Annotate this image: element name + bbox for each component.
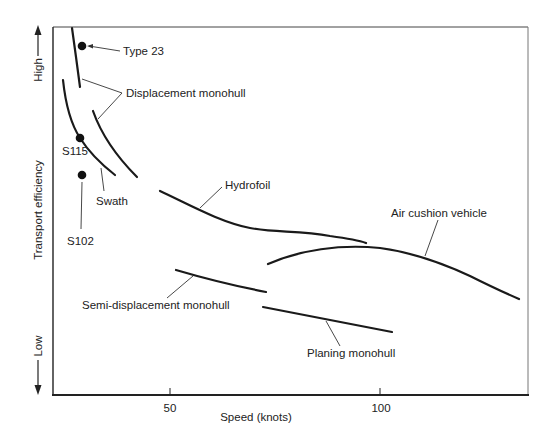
arrow-down-icon: [35, 385, 42, 395]
curve-swath: [63, 80, 115, 175]
curve-semi-displacement-monohull: [176, 270, 266, 292]
y-high-label: High: [32, 58, 44, 82]
leader-s102: [81, 182, 82, 229]
point-type23: [78, 42, 87, 51]
curve-air-cushion-vehicle: [268, 247, 519, 299]
leader-planing: [326, 321, 340, 346]
arrowhead-icon: [87, 44, 93, 49]
leader-acv: [425, 220, 438, 256]
label-swath: Swath: [96, 195, 128, 207]
label-air-cushion-vehicle: Air cushion vehicle: [391, 207, 487, 219]
annotation-labels: Type 23 Displacement monohull S115 Swath…: [62, 45, 487, 359]
leader-type23: [89, 46, 120, 51]
leader-hydrofoil: [200, 187, 222, 208]
y-axis-annotations: High Transport efficiency Low: [32, 25, 44, 395]
x-tick-label-50: 50: [164, 402, 177, 414]
leader-displacement-upper: [82, 79, 122, 93]
curve-hydrofoil: [160, 191, 366, 243]
point-s115: [76, 134, 85, 143]
y-low-label: Low: [32, 335, 44, 357]
curve-planing-monohull: [263, 307, 392, 332]
label-s115: S115: [62, 145, 88, 157]
transport-efficiency-chart: 50 100 Speed (knots) High Transport effi…: [0, 0, 555, 434]
label-displacement-monohull: Displacement monohull: [126, 87, 246, 99]
curve-displacement-monohull-upper: [72, 28, 80, 87]
y-axis-title: Transport efficiency: [32, 160, 44, 260]
point-s102: [78, 171, 87, 180]
leader-swath: [101, 168, 104, 191]
x-tick-label-100: 100: [371, 402, 390, 414]
label-planing-monohull: Planing monohull: [307, 347, 395, 359]
label-semi-displacement-monohull: Semi-displacement monohull: [82, 299, 230, 311]
leader-displacement-lower: [98, 93, 122, 119]
x-axis-title: Speed (knots): [220, 411, 292, 423]
label-hydrofoil: Hydrofoil: [225, 179, 270, 191]
leader-semi-displacement: [167, 276, 193, 298]
arrow-up-icon: [35, 25, 42, 35]
label-type23: Type 23: [123, 45, 164, 57]
curves: [63, 28, 519, 332]
curve-displacement-monohull-lower: [93, 111, 137, 177]
label-s102: S102: [67, 235, 94, 247]
